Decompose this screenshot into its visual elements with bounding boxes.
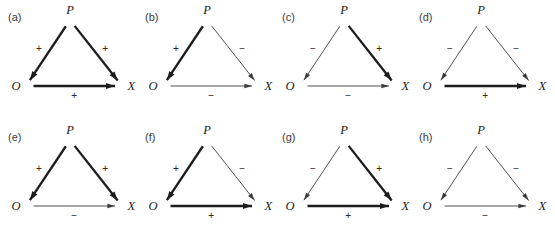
sign-label-p-to-o: + (36, 43, 42, 54)
triangle-graph: ++−POX (0, 120, 137, 240)
arrowhead-p-to-x (248, 193, 255, 200)
sign-label-p-to-x: − (513, 163, 519, 174)
panel-a: (a)+++POX (0, 0, 137, 120)
node-label-o: O (148, 79, 157, 93)
node-label-x: X (264, 199, 274, 213)
node-label-p: P (65, 123, 74, 137)
sign-label-p-to-o: − (310, 43, 316, 54)
sign-label-p-to-o: − (447, 163, 453, 174)
sign-label-o-to-x: − (71, 210, 77, 221)
triangle-graph: −−−POX (411, 120, 548, 240)
edge-p-to-x (349, 26, 392, 81)
edge-p-to-x (75, 146, 118, 201)
arrowhead-p-to-x (522, 73, 529, 80)
sign-label-o-to-x: − (482, 210, 488, 221)
arrowhead-p-to-o (304, 193, 310, 201)
sign-label-o-to-x: + (482, 90, 488, 101)
node-label-o: O (11, 199, 20, 213)
arrowhead-o-to-x (244, 84, 252, 89)
arrowhead-p-to-o (304, 73, 310, 81)
node-label-x: X (401, 79, 411, 93)
panel-g: (g)−++POX (274, 120, 411, 240)
arrowhead-p-to-x (522, 193, 529, 200)
node-label-p: P (339, 123, 348, 137)
sign-label-p-to-o: − (310, 163, 316, 174)
sign-label-p-to-o: + (173, 43, 179, 54)
edge-p-to-x (212, 26, 255, 81)
arrowhead-o-to-x (106, 83, 115, 89)
sign-label-p-to-x: + (102, 163, 108, 174)
sign-label-p-to-x: − (239, 163, 245, 174)
panel-h: (h)−−−POX (411, 120, 548, 240)
node-label-x: X (127, 199, 137, 213)
panel-f: (f)+−+POX (137, 120, 274, 240)
sign-label-o-to-x: + (208, 210, 214, 221)
edge-p-to-x (486, 146, 529, 201)
triangle-graph: −++POX (274, 120, 411, 240)
sign-label-o-to-x: + (345, 210, 351, 221)
panel-row-bottom: (e)++−POX(f)+−+POX(g)−++POX(h)−−−POX (0, 120, 555, 240)
node-label-o: O (285, 79, 294, 93)
triangle-graph: −+−POX (274, 0, 411, 120)
triangle-graph: −−+POX (411, 0, 548, 120)
node-label-o: O (11, 79, 20, 93)
triangle-graph: +++POX (0, 0, 137, 120)
signed-digraph-figure: (a)+++POX(b)+−−POX(c)−+−POX(d)−−+POX (e)… (0, 0, 555, 240)
sign-label-p-to-o: + (173, 163, 179, 174)
edge-p-to-x (212, 146, 255, 201)
arrowhead-p-to-o (441, 193, 447, 201)
arrowhead-p-to-x (248, 73, 255, 80)
panel-c: (c)−+−POX (274, 0, 411, 120)
node-label-p: P (476, 3, 485, 17)
node-label-x: X (401, 199, 411, 213)
node-label-p: P (202, 3, 211, 17)
node-label-x: X (538, 199, 548, 213)
node-label-o: O (285, 199, 294, 213)
node-label-p: P (65, 3, 74, 17)
sign-label-p-to-x: − (513, 43, 519, 54)
sign-label-o-to-x: + (71, 90, 77, 101)
node-label-p: P (476, 123, 485, 137)
node-label-x: X (127, 79, 137, 93)
panel-d: (d)−−+POX (411, 0, 548, 120)
node-label-o: O (422, 79, 431, 93)
node-label-x: X (264, 79, 274, 93)
node-label-o: O (422, 199, 431, 213)
triangle-graph: +−+POX (137, 120, 274, 240)
sign-label-p-to-x: + (102, 43, 108, 54)
node-label-x: X (538, 79, 548, 93)
sign-label-o-to-x: − (208, 90, 214, 101)
arrowhead-o-to-x (517, 83, 526, 89)
arrowhead-o-to-x (381, 84, 389, 89)
arrowhead-p-to-o (441, 73, 447, 81)
arrowhead-o-to-x (243, 203, 252, 209)
arrowhead-o-to-x (107, 204, 115, 209)
edge-p-to-x (486, 26, 529, 81)
sign-label-p-to-o: + (36, 163, 42, 174)
sign-label-p-to-x: + (376, 43, 382, 54)
panel-row-top: (a)+++POX(b)+−−POX(c)−+−POX(d)−−+POX (0, 0, 555, 120)
sign-label-p-to-o: − (447, 43, 453, 54)
edge-p-to-x (75, 26, 118, 81)
sign-label-p-to-x: + (376, 163, 382, 174)
arrowhead-o-to-x (380, 203, 389, 209)
node-label-o: O (148, 199, 157, 213)
node-label-p: P (339, 3, 348, 17)
node-label-p: P (202, 123, 211, 137)
arrowhead-o-to-x (518, 204, 526, 209)
panel-b: (b)+−−POX (137, 0, 274, 120)
sign-label-p-to-x: − (239, 43, 245, 54)
triangle-graph: +−−POX (137, 0, 274, 120)
panel-e: (e)++−POX (0, 120, 137, 240)
sign-label-o-to-x: − (345, 90, 351, 101)
edge-p-to-x (349, 146, 392, 201)
